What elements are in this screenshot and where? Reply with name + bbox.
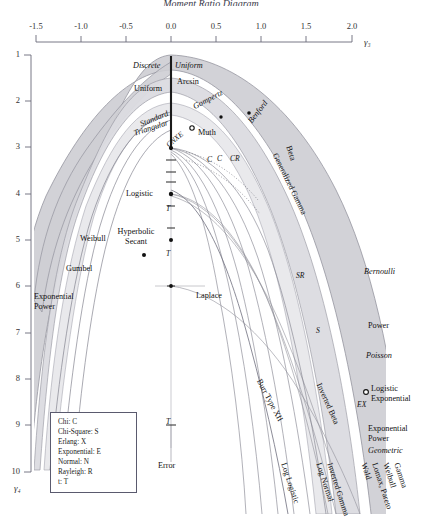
x-tick-label: -1.5 [22,22,50,31]
label-power: Power [368,322,389,330]
label-arcsin: Arcsin [177,78,199,86]
x-tick-label: 1.0 [247,22,275,31]
legend-item: Rayleigh: R [58,468,130,478]
x-tick-label: 1.5 [292,22,320,31]
label-muth: Muth [198,129,216,137]
legend-item-text: Chi-Square: S [58,428,99,436]
x-tick-label: 0.5 [202,22,230,31]
code-chisq-rayleigh: SR [296,272,304,280]
marker-muth [190,126,194,130]
marker-standard-triangular [219,115,222,118]
legend-item-text: Normal: N [58,458,89,466]
label-secant: Secant [106,238,166,246]
y-tick-label: 3 [0,142,20,151]
marker-hyperbolic-secant [169,238,173,242]
code-chi: C [217,155,222,163]
legend-item: Normal: N [58,458,130,468]
y-axis [24,55,31,472]
label-poisson: Poisson [366,352,392,360]
label-discrete-uniform-right: Uniform [175,62,203,70]
label-gumbel: Gumbel [66,265,92,273]
legend-item-text: Chi: C [58,418,77,426]
label-uniform: Uniform [134,85,162,93]
y-tick-label: 4 [0,189,20,198]
y-tick-label: 10 [0,467,20,476]
y-tick-label: 2 [0,96,20,105]
label-logistic-exponential-2: Exponential [371,395,411,403]
label-exponential-power-left-2: Power [34,303,55,311]
legend-item: t: T [58,478,130,488]
legend-item-text: Erlang: X [58,438,86,446]
label-exponential-power-right-2: Power [368,435,389,443]
label-hyperbolic: Hyperbolic [106,228,166,236]
y-tick-label: 9 [0,420,20,429]
code-chi-rayleigh: CR [230,155,240,163]
label-bernoulli: Bernoulli [364,268,395,276]
legend-box: Chi: C Chi-Square: S Erlang: X Exponenti… [50,412,137,493]
marker-laplace [169,284,173,288]
code-chi-center: C [207,156,212,164]
legend-item-text: Rayleigh: R [58,468,93,476]
x-axis [36,35,352,42]
label-error: Error [158,462,175,470]
y-tick-label: 8 [0,374,20,383]
code-exp-erlang: EX [357,401,366,409]
code-t-upper: T [166,205,170,213]
label-discrete-uniform-left: Discrete [133,62,160,70]
y-tick-label: 1 [0,50,20,59]
label-logistic: Logistic [126,190,153,198]
x-tick-label: -0.5 [112,22,140,31]
x-tick-label: 2.0 [338,22,366,31]
legend-item-text: t: T [58,478,68,486]
legend-item: Chi-Square: S [58,428,130,438]
label-exponential-power-left-1: Exponential [34,293,74,301]
code-t-mid: T [166,250,170,258]
moment-ratio-diagram: Moment Ratio Diagram [0,0,422,522]
x-tick-label: -1.0 [67,22,95,31]
x-axis-label: γ₃ [364,38,371,47]
y-tick-label: 5 [0,235,20,244]
y-axis-label: γ₄ [14,484,21,493]
marker-gumbel [142,253,146,257]
legend-item: Erlang: X [58,438,130,448]
marker-logistic [169,192,173,196]
label-logistic-exponential-1: Logistic [371,385,398,393]
label-laplace: Laplace [196,292,222,300]
label-exponential-power-right-1: Exponential [368,425,408,433]
legend-item-text: Exponential: E [58,448,101,456]
legend-item: Exponential: E [58,448,130,458]
x-tick-label: 0.0 [157,22,185,31]
legend-item: Chi: C [58,418,130,428]
y-tick-label: 6 [0,281,20,290]
y-tick-label: 7 [0,328,20,337]
marker-logistic-exponential [364,390,369,395]
label-weibull: Weibull [80,235,106,243]
code-t-low: T [166,418,170,426]
label-geometric: Geometric [368,447,403,455]
code-chisquare: S [316,327,320,335]
